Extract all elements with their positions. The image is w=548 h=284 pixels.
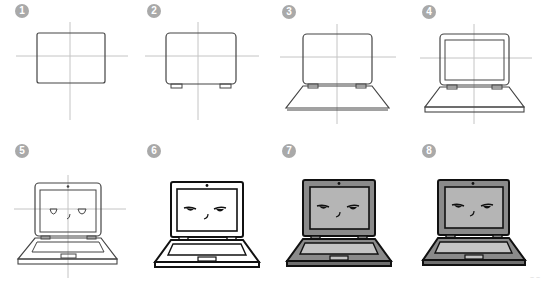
laptop-sketch-step-3 [270, 0, 407, 130]
step-panel-4: 4 [410, 0, 547, 130]
laptop-final-step-8 [410, 140, 547, 284]
step-panel-8: 8 [410, 140, 547, 284]
step-panel-6: 6 [135, 140, 272, 284]
step-panel-5: 5 [0, 140, 137, 284]
laptop-sketch-step-6 [135, 140, 272, 284]
watermark: ~ ~ [530, 274, 540, 281]
laptop-sketch-step-5 [0, 140, 137, 284]
laptop-colored-step-7 [270, 140, 407, 284]
laptop-sketch-step-1 [0, 0, 137, 130]
step-panel-1: 1 [0, 0, 137, 130]
step-panel-7: 7 [270, 140, 407, 284]
step-panel-3: 3 [270, 0, 407, 130]
step-panel-2: 2 [135, 0, 272, 130]
laptop-sketch-step-2 [135, 0, 272, 130]
laptop-sketch-step-4 [410, 0, 547, 130]
